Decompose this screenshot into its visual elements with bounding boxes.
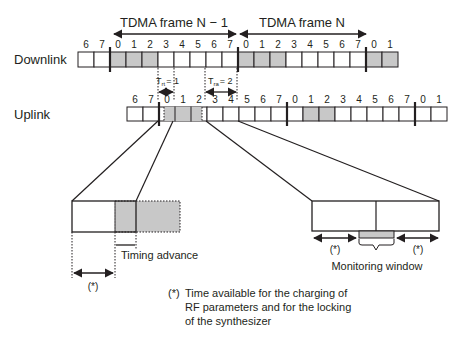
star-marker-left: (*) — [330, 244, 341, 255]
time-slot — [350, 52, 366, 67]
slot-number: 0 — [243, 39, 249, 50]
slot-number: 3 — [163, 39, 169, 50]
slot-number: 4 — [179, 39, 185, 50]
time-slot — [383, 107, 399, 121]
frame-header-n: TDMA frame N — [240, 15, 366, 34]
uplink-label: Uplink — [14, 107, 51, 122]
time-slot — [127, 107, 143, 121]
slot-number: 7 — [227, 39, 233, 50]
slot-number: 2 — [324, 94, 330, 105]
slot-number: 1 — [387, 39, 393, 50]
slot-number: 0 — [420, 94, 426, 105]
time-slot — [142, 52, 158, 67]
monitoring-brace — [359, 239, 394, 250]
time-slot — [399, 107, 415, 121]
timing-advance-label: Timing advance — [121, 249, 198, 261]
time-slot — [286, 52, 302, 67]
slot-number: 6 — [339, 39, 345, 50]
slot-number: 3 — [340, 94, 346, 105]
slot-number: 4 — [307, 39, 313, 50]
slot-number: 0 — [115, 39, 121, 50]
star-marker-right: (*) — [413, 244, 424, 255]
time-slot — [287, 107, 303, 121]
frame-header-n-minus-1: TDMA frame N − 1 — [114, 15, 236, 34]
slot-number: 5 — [323, 39, 329, 50]
slot-number: 5 — [195, 39, 201, 50]
time-slot — [110, 52, 126, 67]
time-slot — [94, 52, 110, 67]
timing-advance-detail: Timing advance (*) — [72, 201, 198, 292]
time-slot — [334, 52, 350, 67]
time-slot — [319, 107, 335, 121]
footnote-line-3: of the synthesizer — [185, 315, 272, 327]
slot-number: 7 — [99, 39, 105, 50]
time-slot — [366, 52, 382, 67]
time-slot — [382, 52, 398, 67]
time-slot — [351, 107, 367, 121]
time-slot — [255, 107, 271, 121]
slot-number: 6 — [132, 94, 138, 105]
zoom-line — [238, 121, 439, 201]
time-slot — [367, 107, 383, 121]
slot-number: 7 — [404, 94, 410, 105]
time-slot — [78, 52, 94, 67]
time-slot — [302, 52, 318, 67]
time-slot — [335, 107, 351, 121]
monitoring-window-detail: (*) (*) Monitoring window — [312, 201, 439, 272]
slot-number: 2 — [275, 39, 281, 50]
slot-number: 2 — [196, 94, 202, 105]
slot-number: 7 — [355, 39, 361, 50]
time-slot — [158, 52, 174, 67]
footnote-marker: (*) — [168, 287, 180, 299]
svg-text:Tra= 2: Tra= 2 — [208, 76, 233, 87]
time-slot — [206, 52, 222, 67]
slot-number: 1 — [308, 94, 314, 105]
time-slot — [270, 52, 286, 67]
slot-number: 0 — [371, 39, 377, 50]
zoom-line — [206, 121, 312, 201]
zoom-line — [136, 121, 173, 201]
footnote: (*) Time available for the charging of R… — [168, 287, 351, 327]
footnote-line-2: RF parameters and for the locking — [185, 301, 351, 313]
time-slot — [431, 107, 447, 121]
slot-number: 3 — [212, 94, 218, 105]
slot-number: 6 — [260, 94, 266, 105]
slot-number: 3 — [291, 39, 297, 50]
monitoring-window-label: Monitoring window — [331, 260, 422, 272]
time-slot — [238, 52, 254, 67]
time-slot — [190, 52, 206, 67]
slot-number: 6 — [388, 94, 394, 105]
time-slot — [222, 52, 238, 67]
slot-number: 0 — [164, 94, 170, 105]
time-slot — [126, 52, 142, 67]
slot-number: 1 — [131, 39, 137, 50]
slot-number: 7 — [148, 94, 154, 105]
time-slot — [207, 107, 223, 121]
slot-number: 4 — [356, 94, 362, 105]
time-slot — [318, 52, 334, 67]
frame-label-n: TDMA frame N — [259, 15, 345, 30]
frame-label-n-minus-1: TDMA frame N − 1 — [120, 15, 228, 30]
slot-number: 6 — [83, 39, 89, 50]
slot-number: 6 — [211, 39, 217, 50]
zoom-line — [72, 121, 158, 201]
uplink-burst-shade — [164, 107, 202, 121]
time-slot — [415, 107, 431, 121]
slot-number: 5 — [244, 94, 250, 105]
time-slot — [239, 107, 255, 121]
slot-number: 7 — [276, 94, 282, 105]
slot-number: 1 — [436, 94, 442, 105]
slot-number: 1 — [259, 39, 265, 50]
tdma-diagram: TDMA frame N − 1 TDMA frame N Downlink U… — [0, 0, 460, 343]
time-slot — [174, 52, 190, 67]
slot-number: 5 — [372, 94, 378, 105]
downlink-slot-row: 67012345670123456701 — [78, 39, 398, 72]
time-slot — [254, 52, 270, 67]
star-marker: (*) — [88, 281, 99, 292]
monitoring-window-bar — [359, 231, 394, 238]
svg-text:Trt= 1: Trt= 1 — [156, 76, 179, 87]
time-slot — [303, 107, 319, 121]
slot-number: 2 — [147, 39, 153, 50]
footnote-line-1: Time available for the charging of — [185, 287, 348, 299]
time-slot — [223, 107, 239, 121]
